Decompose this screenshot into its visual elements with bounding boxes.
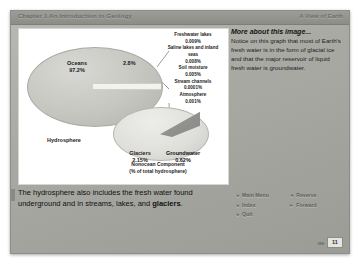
sub-caption-line2: (% of total hydrosphere)	[129, 168, 187, 174]
groundwater-label-text: Groundwater	[166, 150, 200, 156]
list-item: Stream channels 0.0001%	[162, 79, 224, 92]
page-arrows-icon[interactable]: ▸▸▸	[318, 239, 324, 246]
nav-column-paging: ◄Reverse ►Forward	[289, 191, 317, 210]
hydrosphere-label: Hydrosphere	[47, 137, 81, 143]
nonocean-slice-value: 2.8%	[123, 60, 136, 66]
navigation-links: ▸Main Menu ▸Index ▸Quit ◄Reverse ►Forwar…	[233, 191, 343, 221]
detail-value: 0.0001%	[184, 85, 202, 90]
sub-caption-line1: Nonocean Component	[131, 161, 184, 167]
nav-reverse-label: Reverse	[296, 192, 316, 198]
info-panel-body: Notice on this graph that most of Earth'…	[231, 37, 343, 73]
detail-label: Atmosphere	[180, 92, 207, 97]
bullet-icon: ▸	[237, 211, 240, 217]
nav-index-label: Index	[242, 202, 256, 208]
nav-forward-label: Forward	[296, 202, 316, 208]
unit-title: A View of Earth	[299, 13, 343, 19]
list-item: Atmosphere 0.001%	[162, 92, 224, 105]
bullet-icon: ▸	[237, 202, 240, 208]
page-number: 11	[327, 237, 343, 248]
nav-column-primary: ▸Main Menu ▸Index ▸Quit	[237, 191, 269, 220]
caption-text-bold: glaciers	[152, 199, 180, 208]
oceans-label-value: 97.2%	[69, 67, 85, 73]
arrow-right-icon: ►	[289, 202, 294, 208]
detail-value: 0.005%	[185, 72, 201, 77]
slide-caption: The hydrosphere also includes the fresh …	[18, 187, 227, 227]
nav-forward-link[interactable]: ►Forward	[289, 201, 317, 211]
glaciers-label-text: Glaciers	[129, 150, 151, 156]
chapter-title: Chapter 1 An Introduction to Geology	[18, 13, 132, 19]
detail-label: Stream channels	[175, 79, 212, 84]
oceans-slice-label: Oceans 97.2%	[49, 60, 105, 74]
page-indicator: ▸▸▸ 11	[318, 237, 343, 248]
info-panel: More about this image... Notice on this …	[231, 28, 343, 183]
nonocean-wedge	[93, 83, 161, 90]
nav-main-menu-label: Main Menu	[242, 192, 269, 198]
nav-reverse-link[interactable]: ◄Reverse	[289, 191, 317, 201]
detail-label: Saline lakes and inland seas	[168, 45, 219, 57]
detail-label: Soil moisture	[178, 65, 207, 70]
nav-quit-label: Quit	[242, 211, 252, 217]
detail-value: 0.008%	[185, 59, 201, 64]
detail-value: 0.009%	[185, 39, 201, 44]
caption-text-after: .	[181, 199, 183, 208]
nav-main-menu-link[interactable]: ▸Main Menu	[237, 191, 269, 201]
nonocean-pie-chart: Glaciers 2.15% Groundwater 0.62%	[113, 107, 207, 167]
minor-reservoirs-list: Freshwater lakes 0.009% Saline lakes and…	[162, 32, 224, 105]
bullet-icon: ▸	[237, 192, 240, 198]
nav-index-link[interactable]: ▸Index	[237, 201, 269, 211]
info-panel-heading: More about this image...	[231, 28, 343, 35]
figure-panel: Oceans 97.2% 2.8% Hydrosphere Glaciers 2…	[18, 28, 229, 185]
nav-quit-link[interactable]: ▸Quit	[237, 210, 269, 220]
sub-pie-caption: Nonocean Component (% of total hydrosphe…	[94, 161, 222, 174]
title-bar: Chapter 1 An Introduction to Geology A V…	[11, 11, 349, 25]
presentation-window: Chapter 1 An Introduction to Geology A V…	[10, 10, 350, 254]
arrow-left-icon: ◄	[289, 192, 294, 198]
list-item: Soil moisture 0.005%	[162, 65, 224, 78]
list-item: Freshwater lakes 0.009%	[162, 32, 224, 45]
list-item: Saline lakes and inland seas 0.008%	[162, 45, 224, 65]
oceans-label-text: Oceans	[67, 60, 87, 66]
left-edge-tab	[11, 189, 15, 201]
detail-value: 0.001%	[185, 99, 201, 104]
detail-label: Freshwater lakes	[174, 32, 211, 37]
